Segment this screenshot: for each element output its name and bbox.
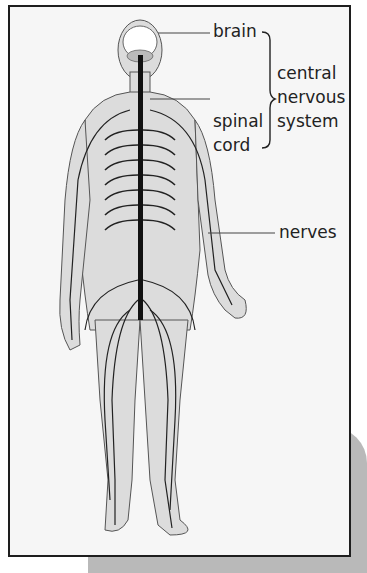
label-central: central <box>277 64 336 83</box>
label-cord: cord <box>213 136 250 155</box>
label-nerves: nerves <box>279 223 337 242</box>
label-brain: brain <box>213 22 257 41</box>
label-system: system <box>277 112 338 131</box>
label-nervous: nervous <box>277 88 345 107</box>
label-spinal: spinal <box>213 112 263 131</box>
nervous-system-figure <box>0 0 367 573</box>
